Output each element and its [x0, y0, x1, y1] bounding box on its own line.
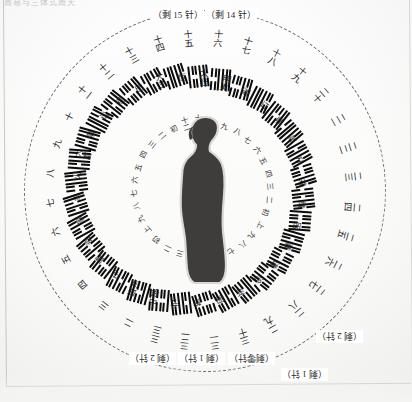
hexagram-name-label: 旅 — [194, 297, 203, 307]
inner-line-numeral-label: 三 — [266, 182, 275, 190]
outer-numeral: 二二 — [337, 140, 357, 154]
yang-line — [188, 292, 193, 314]
outer-numeral: 三二 — [180, 332, 190, 351]
outer-numeral-label: 十六 — [213, 29, 223, 48]
outer-numeral: 三三 — [149, 325, 163, 345]
outer-numeral: 二九 — [264, 315, 281, 335]
outer-numeral-label: 二四 — [343, 201, 362, 211]
outer-numeral: 九 — [51, 139, 62, 150]
inner-line-numeral: 七 — [130, 190, 139, 198]
callout-remaining-zero: （剩零针） — [228, 352, 275, 365]
outer-numeral: 十二 — [97, 62, 116, 82]
outer-numeral-label: 十八 — [266, 47, 282, 67]
inner-line-numeral-label: 八 — [131, 203, 141, 213]
outer-numeral-label: 二二 — [337, 140, 357, 154]
outer-numeral: 十八 — [266, 47, 282, 67]
hexagram-name-label: 井 — [296, 176, 306, 185]
inner-line-numeral: 上 — [143, 226, 154, 237]
callout-remaining-14: （剩 14 针） — [205, 8, 257, 21]
inner-line-numeral-label: 五 — [133, 163, 143, 172]
outer-numeral: 二五 — [337, 229, 357, 243]
inner-line-numeral: 六 — [130, 177, 139, 185]
callout-remaining-1-b: （剩 1 针） — [281, 368, 328, 381]
outer-numeral-label: 十三 — [123, 45, 140, 65]
inner-line-numeral: 九 — [136, 215, 147, 225]
outer-numeral-label: 十五 — [183, 29, 194, 48]
outer-numeral-label: 二三 — [343, 171, 362, 182]
inner-line-numeral-label: 二 — [163, 244, 173, 255]
inner-line-numeral-label: 四 — [263, 168, 273, 178]
callout-remaining-2-b: （剩 2 针） — [316, 330, 363, 343]
outer-numeral-label: 七 — [45, 198, 55, 208]
yang-line — [186, 66, 191, 88]
inner-line-numeral-label: 九 — [248, 230, 259, 241]
inner-line-numeral: 九 — [248, 230, 259, 241]
yang-line — [68, 167, 90, 171]
inner-line-numeral: 四 — [138, 151, 149, 161]
scanned-page: 周易与三体式周天 大过十四十二恒十五十一大壮十六十明夷十七九遁十八八订十九七鼎二… — [0, 0, 412, 402]
inner-line-numeral-label: 上 — [256, 219, 267, 229]
outer-numeral: 十一 — [75, 83, 95, 101]
outer-numeral: 十四 — [152, 34, 166, 54]
outer-numeral-label: 十七 — [240, 35, 254, 55]
outer-numeral-label: 五 — [61, 254, 73, 266]
outer-numeral-label: 三一 — [209, 332, 220, 351]
inner-line-numeral: 初 — [262, 207, 272, 216]
inner-line-numeral: 八 — [131, 203, 141, 213]
outer-numeral-label: 三十 — [237, 326, 251, 346]
outer-numeral-label: 十九 — [290, 64, 308, 84]
inner-line-numeral: 五 — [258, 155, 269, 165]
outer-numeral-label: 三 — [98, 300, 111, 313]
outer-numeral: 十三 — [123, 45, 140, 65]
outer-numeral: 二六 — [325, 255, 345, 271]
inner-line-numeral-label: 初 — [152, 236, 163, 247]
hexagram-name-label: 贲 — [296, 198, 306, 207]
inner-line-numeral: 三 — [146, 140, 157, 151]
hexagram-name-label: 大壮 — [198, 69, 208, 88]
callout-remaining-2: （剩 2 针） — [129, 352, 176, 365]
outer-numeral-label: 六 — [50, 227, 61, 238]
inner-line-numeral: 七 — [242, 133, 253, 144]
outer-numeral: 六 — [50, 227, 61, 238]
outer-numeral-label: 二 — [122, 317, 134, 329]
outer-numeral: 十六 — [213, 29, 223, 48]
inner-line-numeral: 三 — [266, 182, 275, 190]
yin-line — [66, 189, 88, 194]
outer-numeral: 十 — [62, 111, 74, 123]
callout-remaining-1: （剩 1 针） — [178, 352, 225, 365]
outer-numeral: 二 — [122, 317, 134, 329]
inner-line-numeral-label: 七 — [242, 133, 253, 144]
hexagram-name-label: 火 — [74, 172, 84, 181]
outer-numeral: 三 — [98, 300, 111, 313]
inner-line-numeral-label: 三 — [146, 140, 157, 151]
outer-numeral-label: 二七 — [308, 279, 328, 297]
yang-line — [289, 209, 311, 213]
outer-numeral: 十七 — [240, 35, 254, 55]
inner-line-numeral: 六 — [251, 143, 262, 154]
yang-line — [167, 290, 171, 312]
outer-numeral-label: 十四 — [152, 34, 166, 54]
inner-line-numeral: 二 — [155, 130, 166, 141]
inner-line-numeral: 上 — [256, 219, 267, 229]
outer-numeral-label: 四 — [77, 279, 90, 292]
outer-numeral: 三十 — [237, 326, 251, 346]
outer-numeral-label: 十一 — [75, 83, 95, 101]
outer-numeral: 七 — [45, 198, 55, 208]
inner-line-numeral-label: 四 — [138, 151, 149, 161]
outer-numeral-label: 二十 — [310, 85, 330, 104]
outer-numeral-label: 二五 — [337, 229, 357, 243]
outer-numeral: 十五 — [183, 29, 194, 48]
hexagram-name-label: 恒 — [176, 73, 185, 83]
outer-numeral-label: 二九 — [264, 315, 281, 335]
outer-numeral-label: 二一 — [326, 111, 346, 128]
outer-numeral: 二四 — [343, 201, 362, 211]
inner-line-numeral: 二 — [265, 195, 274, 203]
outer-numeral: 三一 — [209, 332, 220, 351]
inner-line-numeral-label: 六 — [251, 143, 262, 154]
inner-line-numeral-label: 八 — [238, 239, 249, 250]
outer-numeral: 十九 — [290, 64, 308, 84]
human-silhouette-figure — [176, 114, 238, 286]
outer-numeral: 二八 — [288, 299, 307, 319]
inner-line-numeral-label: 二 — [265, 195, 274, 203]
outer-numeral: 二一 — [326, 111, 346, 128]
